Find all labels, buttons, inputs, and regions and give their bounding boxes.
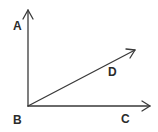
- ray-bd: [28, 49, 135, 106]
- label-d: D: [108, 65, 117, 79]
- label-a: A: [13, 19, 22, 33]
- label-b: B: [13, 113, 22, 127]
- label-c: C: [121, 112, 130, 126]
- angle-diagram: A B C D: [0, 0, 158, 132]
- ray-bc: [28, 101, 150, 111]
- ray-ba: [23, 10, 33, 106]
